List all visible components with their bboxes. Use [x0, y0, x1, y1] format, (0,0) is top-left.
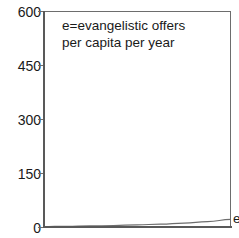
annotation-line-2: per capita per year [62, 34, 222, 51]
y-tick-mark-300 [38, 119, 43, 120]
y-axis-line [43, 11, 45, 228]
chart-screenshot: 600 450 300 150 0 e=evangelistic offers … [0, 0, 239, 238]
y-tick-label-0: 0 [3, 221, 41, 235]
x-axis-line [43, 226, 232, 228]
y-tick-label-300: 300 [3, 113, 41, 127]
y-tick-mark-150 [38, 173, 43, 174]
y-tick-mark-0 [38, 227, 43, 228]
y-tick-mark-450 [38, 65, 43, 66]
y-tick-label-150: 150 [3, 167, 41, 181]
annotation-line-1: e=evangelistic offers [62, 17, 222, 34]
plot-annotation: e=evangelistic offers per capita per yea… [62, 17, 222, 51]
series-label-e: e [233, 212, 239, 226]
y-tick-mark-600 [38, 11, 43, 12]
y-axis-tick-labels: 600 450 300 150 0 [0, 0, 41, 238]
y-tick-label-600: 600 [3, 5, 41, 19]
y-tick-label-450: 450 [3, 59, 41, 73]
